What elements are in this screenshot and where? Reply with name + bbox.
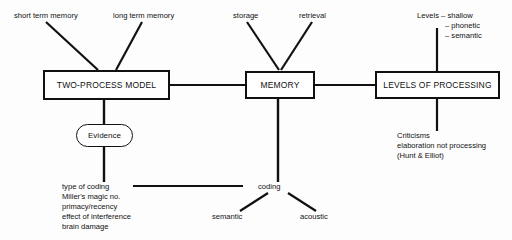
label-evidence-line4: effect of interference xyxy=(62,212,131,221)
node-memory[interactable]: MEMORY xyxy=(245,71,315,99)
connector-long-term-memory xyxy=(116,22,142,70)
label-evidence-line3: primacy/recency xyxy=(62,202,117,211)
node-two-process-model[interactable]: TWO-PROCESS MODEL xyxy=(43,70,170,100)
label-criticisms-line3: (Hunt & Elliot) xyxy=(397,151,444,160)
node-memory-label: MEMORY xyxy=(261,80,300,90)
node-evidence-label: Evidence xyxy=(88,131,121,140)
connector-coding-to-acoustic xyxy=(288,193,316,211)
connector-retrieval xyxy=(281,22,312,70)
label-short-term-memory: short term memory xyxy=(14,11,78,20)
label-levels-line3: – semantic xyxy=(445,31,482,40)
connector-storage xyxy=(247,22,279,70)
label-evidence-line2: Miller's magic no. xyxy=(62,192,120,201)
label-evidence-line5: brain damage xyxy=(62,222,108,231)
node-levels-of-processing-label: LEVELS OF PROCESSING xyxy=(383,80,491,90)
label-storage: storage xyxy=(233,11,258,20)
label-levels-line1: Levels – shallow xyxy=(417,11,473,20)
connector-short-term-memory xyxy=(46,22,98,70)
node-evidence[interactable]: Evidence xyxy=(76,124,133,147)
label-retrieval: retrieval xyxy=(299,11,326,20)
concept-map-diagram: TWO-PROCESS MODEL MEMORY LEVELS OF PROCE… xyxy=(0,0,512,240)
connector-coding-to-semantic xyxy=(240,193,268,211)
label-criticisms-line2: elaboration not processing xyxy=(397,141,486,150)
label-semantic: semantic xyxy=(212,212,242,221)
node-two-process-model-label: TWO-PROCESS MODEL xyxy=(57,80,156,90)
label-long-term-memory: long term memory xyxy=(113,11,174,20)
node-levels-of-processing[interactable]: LEVELS OF PROCESSING xyxy=(375,71,500,99)
label-levels-line2: – phonetic xyxy=(445,21,480,30)
label-acoustic: acoustic xyxy=(300,212,328,221)
node-coding-label[interactable]: coding xyxy=(258,182,280,191)
label-evidence-line1: type of coding xyxy=(62,182,109,191)
label-criticisms-line1: Criticisms xyxy=(397,131,430,140)
